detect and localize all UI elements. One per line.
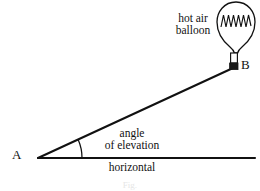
figure-caption: Fig. (96, 181, 164, 191)
angle-of-elevation-diagram: hot airballoon B A angleof elevation hor… (0, 0, 260, 191)
balloon-label-line2: balloon (166, 24, 220, 36)
balloon-basket (230, 63, 238, 70)
angle-arc (78, 140, 82, 158)
angle-label-line1: angle (120, 127, 145, 139)
balloon-label: hot airballoon (166, 12, 220, 37)
angle-of-elevation-label: angleof elevation (85, 127, 179, 152)
balloon-envelope (217, 2, 255, 53)
balloon-label-line1: hot air (178, 12, 208, 24)
point-b-label: B (241, 58, 250, 72)
horizontal-label: horizontal (88, 161, 176, 173)
angle-label-line2: of elevation (85, 139, 179, 151)
balloon-neck (231, 53, 238, 63)
point-a-label: A (12, 148, 21, 162)
